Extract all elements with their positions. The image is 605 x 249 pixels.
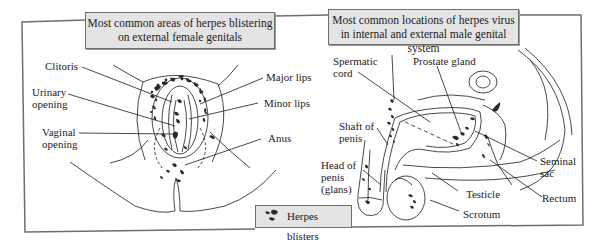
label-head-of-penis-3: (glans)	[321, 183, 352, 196]
label-prostate-gland: Prostate gland	[413, 55, 476, 68]
label-head-of-penis-1: Head of	[321, 159, 356, 172]
label-scrotum: Scrotum	[463, 208, 500, 221]
label-testicle: Testicle	[466, 188, 500, 201]
female-title-line2: on external female genitals	[86, 30, 274, 44]
label-minor-lips: Minor lips	[264, 97, 310, 110]
female-genitals-illustration	[70, 65, 276, 212]
female-title-line1: Most common areas of herpes blistering	[86, 16, 274, 30]
label-seminal-sac-2: sac	[540, 167, 554, 180]
label-shaft-of-penis-1: Shaft of	[339, 120, 374, 133]
male-leader-lines	[358, 66, 542, 211]
label-shaft-of-penis-2: penis	[339, 132, 362, 145]
label-spermatic-cord-2: cord	[333, 67, 353, 80]
female-panel-title: Most common areas of herpes blistering o…	[85, 12, 275, 49]
label-urinary-opening-2: opening	[32, 98, 67, 111]
legend-label: Herpes blisters	[287, 206, 351, 246]
label-urinary-opening-1: Urinary	[32, 86, 66, 99]
label-vaginal-opening-2: opening	[42, 138, 77, 151]
label-major-lips: Major lips	[266, 71, 312, 84]
label-seminal-sac-1: Seminal	[540, 155, 576, 168]
male-title-line1: Most common locations of herpes virus	[329, 13, 518, 27]
legend: Herpes blisters	[255, 205, 352, 228]
label-head-of-penis-2: penis	[321, 171, 344, 184]
herpes-blister-icon	[264, 209, 284, 223]
label-spermatic-cord-1: Spermatic	[333, 55, 378, 68]
label-anus: Anus	[268, 132, 291, 145]
label-vaginal-opening-1: Vaginal	[42, 126, 76, 139]
male-panel-title: Most common locations of herpes virus in…	[328, 9, 519, 45]
label-rectum: Rectum	[542, 192, 576, 205]
male-title-line2: in internal and external male genital sy…	[329, 27, 518, 55]
label-clitoris: Clitoris	[45, 60, 78, 73]
